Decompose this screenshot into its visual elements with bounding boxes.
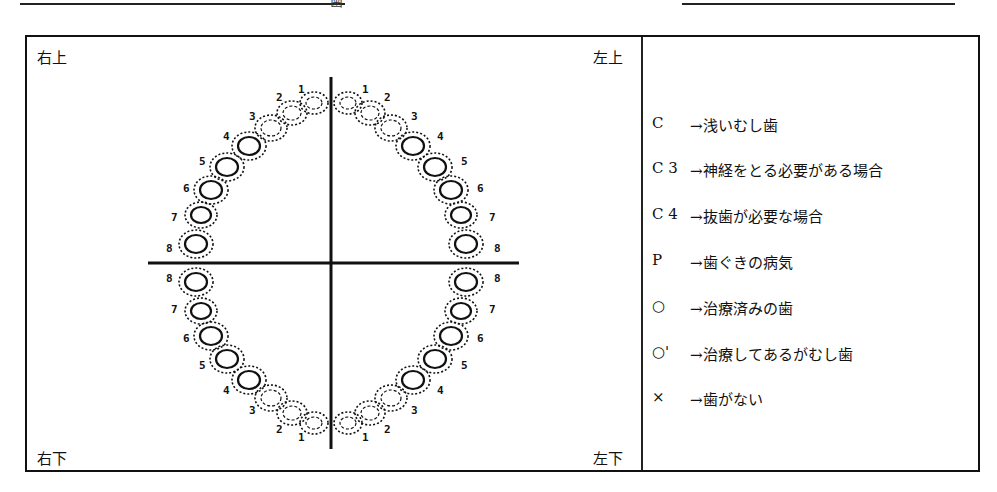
- tooth-crown: [306, 417, 322, 429]
- tooth-number: 2: [384, 423, 391, 436]
- tooth-chart-diagram: 12345678123456781234567812345678: [27, 37, 641, 472]
- tooth-outline: [355, 401, 385, 425]
- quadrant-axes: [148, 77, 519, 449]
- tooth-crown: [424, 158, 446, 176]
- tooth-crown: [261, 390, 281, 406]
- tooth-number: 5: [199, 155, 206, 168]
- tooth-number: 5: [461, 155, 468, 168]
- tooth-number: 6: [183, 332, 190, 345]
- tooth-crown: [451, 207, 471, 223]
- legend-code: ×: [652, 388, 690, 409]
- legend-item-treated: ○ →治療済みの歯: [652, 297, 793, 318]
- legend-desc: →神経をとる必要がある場合: [690, 159, 883, 180]
- tooth-crown: [361, 106, 379, 120]
- tooth-number: 8: [494, 242, 501, 255]
- legend-code: ○: [652, 297, 690, 318]
- legend-item-missing: × →歯がない: [652, 388, 763, 409]
- tooth-outline: [334, 412, 362, 434]
- tooth-crown: [216, 158, 238, 176]
- tooth-number: 4: [223, 384, 230, 397]
- tooth-outline: [255, 115, 287, 141]
- tooth-crown: [440, 327, 462, 345]
- legend-item-p: P →歯ぐきの病気: [652, 251, 793, 272]
- tooth-number: 1: [362, 431, 369, 444]
- tooth-number: 4: [437, 130, 444, 143]
- tooth-number: 3: [249, 404, 256, 417]
- tooth-number: 7: [171, 303, 178, 316]
- dental-chart-table: 右上 左上 右下 左下 1234567812345678123456781234…: [25, 35, 980, 472]
- legend-desc: →歯がない: [690, 388, 763, 409]
- tooth-crown: [381, 120, 401, 136]
- tooth-crown: [455, 235, 477, 253]
- name-underline: [20, 3, 345, 5]
- legend-code: P: [652, 251, 690, 272]
- tooth-number: 6: [477, 332, 484, 345]
- tooth-number: 1: [298, 83, 305, 96]
- legend-code: C: [652, 114, 690, 135]
- tooth-number: 2: [384, 91, 391, 104]
- tooth-crown: [361, 406, 379, 420]
- tooth-crown: [200, 181, 222, 199]
- tooth-number: 7: [171, 211, 178, 224]
- tooth-crown: [283, 406, 301, 420]
- legend-desc: →抜歯が必要な場合: [690, 205, 823, 226]
- tooth-number: 3: [411, 110, 418, 123]
- tooth-number: 6: [183, 182, 190, 195]
- tooth-crown: [306, 97, 322, 109]
- legend-desc: →浅いむし歯: [690, 114, 778, 135]
- legend-code: ○': [652, 343, 690, 364]
- tooth-crown: [402, 137, 424, 155]
- legend-desc: →治療してあるがむし歯: [690, 343, 853, 364]
- tooth-number: 7: [489, 211, 496, 224]
- tooth-crown: [340, 417, 356, 429]
- tooth-number: 3: [411, 404, 418, 417]
- legend-item-c4: C 4 →抜歯が必要な場合: [652, 205, 823, 226]
- tooth-number: 1: [362, 83, 369, 96]
- legend-code: C 3: [652, 159, 690, 180]
- tooth-crown: [283, 106, 301, 120]
- legend-desc: →歯ぐきの病気: [690, 251, 793, 272]
- tooth-crown: [185, 273, 207, 291]
- tooth-crown: [261, 120, 281, 136]
- tooth-outline: [375, 115, 407, 141]
- tooth-outline: [375, 385, 407, 411]
- tooth-outline: [277, 401, 307, 425]
- tooth-crown: [200, 327, 222, 345]
- tooth-crown: [402, 371, 424, 389]
- date-underline: [682, 3, 955, 5]
- tooth-outline: [277, 101, 307, 125]
- tooth-number: 2: [276, 91, 283, 104]
- tooth-number: 4: [223, 130, 230, 143]
- tooth-number: 3: [249, 110, 256, 123]
- legend-item-treated-decay: ○' →治療してあるがむし歯: [652, 343, 853, 364]
- tooth-number: 5: [461, 359, 468, 372]
- tooth-crown: [216, 350, 238, 368]
- tooth-crown: [238, 371, 260, 389]
- tooth-number: 4: [437, 384, 444, 397]
- tooth-crown: [191, 303, 211, 319]
- tooth-crown: [455, 273, 477, 291]
- tooth-crown: [424, 350, 446, 368]
- header-mark: 歯: [330, 0, 343, 10]
- tooth-crown: [440, 181, 462, 199]
- legend-panel: C →浅いむし歯 C 3 →神経をとる必要がある場合 C 4 →抜歯が必要な場合…: [642, 37, 980, 470]
- tooth-number: 5: [199, 359, 206, 372]
- tooth-crown: [238, 137, 260, 155]
- tooth-number: 8: [166, 242, 173, 255]
- tooth-crown: [191, 207, 211, 223]
- legend-code: C 4: [652, 205, 690, 226]
- tooth-crown: [451, 303, 471, 319]
- tooth-crown: [340, 97, 356, 109]
- tooth-crown: [381, 390, 401, 406]
- tooth-number: 8: [166, 272, 173, 285]
- tooth-crown: [185, 235, 207, 253]
- tooth-outline: [334, 92, 362, 114]
- tooth-number: 1: [298, 431, 305, 444]
- tooth-number: 8: [494, 272, 501, 285]
- tooth-outline: [255, 385, 287, 411]
- tooth-outline: [355, 101, 385, 125]
- tooth-number: 7: [489, 303, 496, 316]
- legend-desc: →治療済みの歯: [690, 297, 793, 318]
- tooth-number: 6: [477, 182, 484, 195]
- legend-item-c: C →浅いむし歯: [652, 114, 778, 135]
